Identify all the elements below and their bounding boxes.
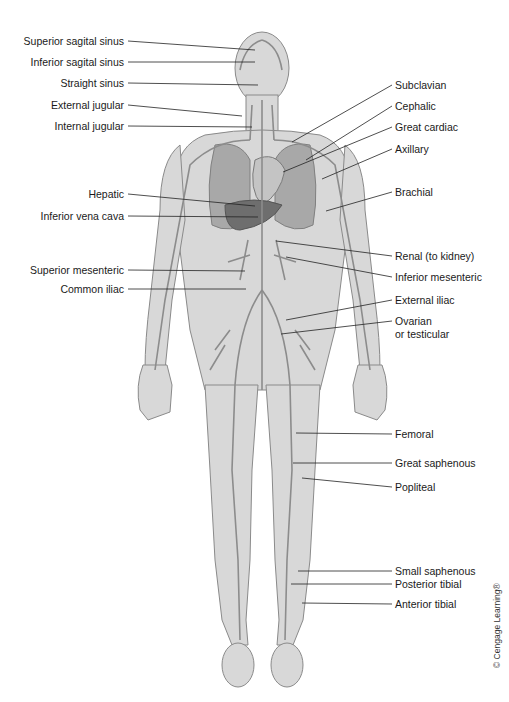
label-inferior-vena-cava: Inferior vena cava (41, 210, 124, 222)
right-lung (275, 144, 316, 229)
label-femoral: Femoral (395, 428, 434, 440)
label-common-iliac: Common iliac (60, 283, 124, 295)
label-superior-sagital-sinus: Superior sagital sinus (24, 35, 124, 47)
label-axillary: Axillary (395, 143, 429, 155)
label-posterior-tibial: Posterior tibial (395, 578, 462, 590)
veins (155, 40, 370, 640)
label-great-saphenous: Great saphenous (395, 457, 476, 469)
leader-line (302, 478, 392, 487)
label-cephalic: Cephalic (395, 100, 436, 112)
copyright-notice: © Cengage Learning® (492, 583, 502, 668)
label-brachial: Brachial (395, 186, 433, 198)
label-internal-jugular: Internal jugular (55, 120, 124, 132)
leader-line (128, 105, 242, 116)
leader-line (128, 126, 252, 127)
label-subclavian: Subclavian (395, 79, 446, 91)
label-small-saphenous: Small saphenous (395, 565, 476, 577)
leader-line (128, 41, 255, 50)
label-popliteal: Popliteal (395, 481, 435, 493)
label-external-jugular: External jugular (51, 99, 124, 111)
label-renal-to-kidney: Renal (to kidney) (395, 250, 474, 262)
label-great-cardiac: Great cardiac (395, 121, 458, 133)
label-or-testicular: or testicular (395, 328, 449, 340)
leader-line (302, 603, 392, 604)
label-hepatic: Hepatic (88, 188, 124, 200)
label-anterior-tibial: Anterior tibial (395, 598, 456, 610)
label-inferior-mesenteric: Inferior mesenteric (395, 271, 482, 283)
label-ovarian: Ovarian (395, 315, 432, 327)
label-superior-mesenteric: Superior mesenteric (30, 264, 124, 276)
label-straight-sinus: Straight sinus (60, 77, 124, 89)
label-inferior-sagital-sinus: Inferior sagital sinus (31, 56, 124, 68)
label-external-iliac: External iliac (395, 294, 455, 306)
